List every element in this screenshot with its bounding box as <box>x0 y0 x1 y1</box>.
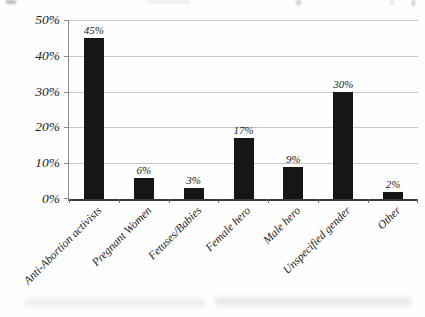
x-axis-tick <box>368 199 369 203</box>
bar <box>283 167 303 199</box>
bar <box>333 92 353 199</box>
y-axis-tick <box>64 56 68 57</box>
cropped-text-artifact <box>6 0 16 4</box>
bar <box>383 192 403 199</box>
bar-series: 45% 6% 3% 17% 9% 30% <box>69 20 418 199</box>
cropped-text-artifact <box>296 0 301 5</box>
bar-slot: 45% <box>69 20 119 199</box>
bar-slot: 30% <box>318 20 368 199</box>
y-axis-tick <box>64 92 68 93</box>
cropped-text-artifact <box>390 1 394 4</box>
bar-value-label: 17% <box>233 124 253 136</box>
bar-value-label: 9% <box>286 153 301 165</box>
x-axis-tick <box>69 199 70 203</box>
y-axis-tick <box>64 20 68 21</box>
x-axis-tick <box>318 199 319 203</box>
bar-slot: 6% <box>119 20 169 199</box>
cropped-text-artifact <box>148 1 190 3</box>
y-axis-tick <box>64 198 68 199</box>
y-axis-label: 30% <box>0 84 60 100</box>
bar <box>134 178 154 200</box>
bar-value-label: 6% <box>136 164 151 176</box>
category-label: Other <box>375 204 402 231</box>
category-label: Fetuses/Babies <box>146 204 204 262</box>
bar-value-label: 3% <box>186 174 201 186</box>
bar-value-label: 30% <box>333 78 353 90</box>
bar-slot: 3% <box>169 20 219 199</box>
bleed-through-artifact <box>215 297 411 306</box>
y-axis-label: 0% <box>0 191 60 207</box>
bar <box>184 188 204 199</box>
x-axis-tick <box>417 199 418 203</box>
x-axis-tick <box>169 199 170 203</box>
category-label: Anti-Abortion activists <box>21 204 103 286</box>
x-axis-tick <box>119 199 120 203</box>
bar-value-label: 45% <box>84 24 104 36</box>
plot-area: 45% 6% 3% 17% 9% 30% <box>68 20 418 201</box>
cropped-text-artifact <box>412 0 415 6</box>
bar-slot: 17% <box>219 20 269 199</box>
category-label: Female hero <box>203 204 253 254</box>
scanned-bar-chart-figure: 50% 40% 30% 20% 10% 0% 45% 6% <box>0 0 425 317</box>
bar <box>84 38 104 199</box>
y-axis-label: 50% <box>0 12 60 28</box>
bar <box>234 138 254 199</box>
x-axis-tick <box>218 199 219 203</box>
y-axis-label: 40% <box>0 48 60 64</box>
y-axis-label: 10% <box>0 155 60 171</box>
y-axis-tick <box>64 163 68 164</box>
x-axis-tick <box>268 199 269 203</box>
bar-slot: 9% <box>268 20 318 199</box>
bar-value-label: 2% <box>386 178 401 190</box>
category-label: Male hero <box>261 204 303 246</box>
y-axis-label: 20% <box>0 119 60 135</box>
bar-slot: 2% <box>368 20 418 199</box>
y-axis-tick <box>64 127 68 128</box>
bleed-through-artifact <box>25 299 205 306</box>
